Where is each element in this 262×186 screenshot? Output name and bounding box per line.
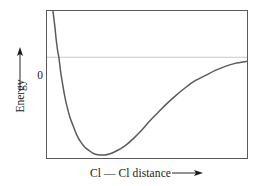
y-axis-label: Energy [14, 57, 26, 135]
potential-energy-curve [47, 11, 247, 158]
plot-frame [46, 10, 248, 159]
x-axis-label-group: Cl — Cl distance [46, 163, 248, 183]
x-axis: Cl — Cl distance [46, 163, 248, 186]
y-axis-label-group: Energy [7, 46, 33, 146]
y-axis: 0 Energy [0, 0, 46, 186]
x-axis-label: Cl — Cl distance [90, 167, 171, 179]
arrow-right-icon [172, 167, 204, 179]
figure-container: 0 Energy Cl — Cl distance [0, 0, 262, 186]
curve-path [53, 11, 247, 155]
